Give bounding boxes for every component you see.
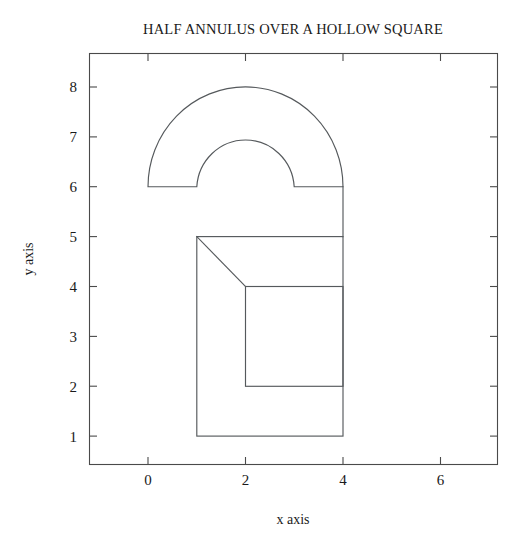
x-tick-label: 0 — [144, 472, 152, 488]
y-tick-labels: 1 2 3 4 5 6 7 8 — [70, 79, 78, 444]
inner-square-hole — [246, 287, 344, 387]
y-tick-label: 1 — [70, 429, 78, 445]
outer-square — [197, 237, 343, 437]
x-tick-label: 2 — [242, 472, 250, 488]
y-tick-label: 3 — [70, 329, 78, 345]
chart-title: HALF ANNULUS OVER A HOLLOW SQUARE — [143, 21, 443, 37]
x-tick-marks-bottom — [148, 457, 441, 464]
y-tick-label: 7 — [70, 129, 78, 145]
y-tick-label: 2 — [70, 379, 78, 395]
y-tick-label: 6 — [70, 179, 78, 195]
x-tick-labels: 0 2 4 6 — [144, 472, 445, 488]
y-axis-label: y axis — [21, 242, 36, 275]
y-tick-label: 8 — [70, 79, 78, 95]
x-axis-label: x axis — [276, 512, 309, 527]
x-tick-label: 4 — [339, 472, 347, 488]
y-tick-label: 4 — [70, 279, 78, 295]
y-tick-label: 5 — [70, 229, 78, 245]
plot-frame — [90, 54, 498, 465]
y-tick-marks-right — [490, 87, 497, 436]
x-tick-label: 6 — [437, 472, 445, 488]
y-tick-marks-left — [90, 87, 97, 436]
figure-canvas: HALF ANNULUS OVER A HOLLOW SQUARE — [0, 0, 526, 546]
diagonal-cut-line — [197, 237, 246, 287]
x-tick-marks-top — [148, 54, 441, 61]
half-annulus-shape — [148, 87, 343, 187]
